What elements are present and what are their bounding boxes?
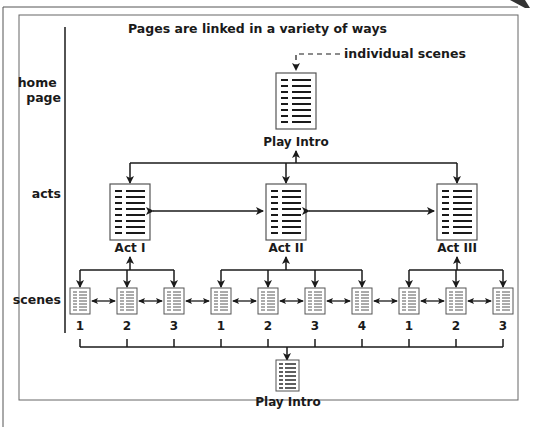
scene-row: 1 2 3 1 2 3 4 1 2 3	[70, 288, 513, 333]
scene-act2-2[interactable]: 2	[258, 288, 278, 333]
svg-text:1: 1	[405, 319, 413, 333]
scene-act1-3[interactable]: 3	[164, 288, 184, 333]
scene-act3-1[interactable]: 1	[399, 288, 419, 333]
svg-text:Play Intro: Play Intro	[263, 135, 329, 149]
svg-text:2: 2	[452, 319, 460, 333]
svg-text:4: 4	[358, 319, 366, 333]
act-page-act-2[interactable]: Act II	[266, 184, 306, 255]
scene-act1-2[interactable]: 2	[117, 288, 137, 333]
page-icon	[276, 73, 316, 129]
svg-text:individual scenes: individual scenes	[344, 46, 466, 61]
scenes-to-intro-connector	[80, 339, 503, 360]
home-to-acts-connector	[130, 151, 457, 183]
page-icon	[437, 184, 477, 240]
svg-text:Play Intro: Play Intro	[255, 395, 321, 409]
act-to-scenes-connectors	[80, 257, 503, 287]
annotation-individual-scenes: individual scenes	[296, 46, 466, 70]
svg-text:Act II: Act II	[268, 241, 303, 255]
page-icon	[110, 184, 150, 240]
svg-text:3: 3	[311, 319, 319, 333]
svg-text:2: 2	[264, 319, 272, 333]
scene-act1-1[interactable]: 1	[70, 288, 90, 333]
level-label-scenes: scenes	[13, 292, 61, 307]
svg-text:3: 3	[170, 319, 178, 333]
scene-act2-1[interactable]: 1	[211, 288, 231, 333]
svg-text:2: 2	[123, 319, 131, 333]
home-page-play-intro[interactable]: Play Intro	[263, 73, 329, 149]
act-page-act-1[interactable]: Act I	[110, 184, 150, 255]
diagram-canvas: Pages are linked in a variety of ways ho…	[0, 0, 533, 427]
page-icon	[266, 184, 306, 240]
bottom-page-play-intro[interactable]: Play Intro	[255, 360, 321, 409]
svg-text:1: 1	[217, 319, 225, 333]
svg-text:Act I: Act I	[115, 241, 146, 255]
scene-act2-4[interactable]: 4	[352, 288, 372, 333]
scene-act2-3[interactable]: 3	[305, 288, 325, 333]
level-label-acts: acts	[32, 186, 61, 201]
svg-text:1: 1	[76, 319, 84, 333]
scene-act3-3[interactable]: 3	[493, 288, 513, 333]
svg-text:3: 3	[499, 319, 507, 333]
figure-title: Pages are linked in a variety of ways	[128, 21, 387, 36]
page-icon	[279, 364, 296, 388]
scene-act3-2[interactable]: 2	[446, 288, 466, 333]
act-page-act-3[interactable]: Act III	[437, 184, 477, 255]
level-label-home: home page	[18, 75, 61, 105]
svg-text:Act III: Act III	[437, 241, 477, 255]
